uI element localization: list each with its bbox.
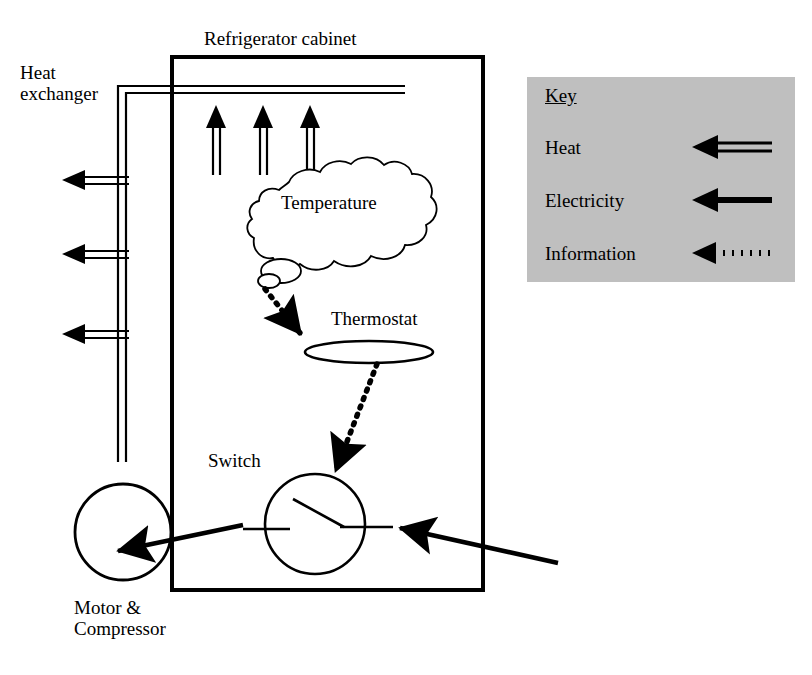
label-thermostat: Thermostat: [331, 308, 418, 329]
information-arrow-temperature-to-thermostat: [265, 289, 300, 333]
label-switch: Switch: [208, 450, 261, 471]
heat-arrow-up-3: [300, 105, 320, 175]
key-heat-arrow-icon: [692, 135, 772, 159]
label-temperature: Temperature: [281, 192, 377, 213]
temperature-thought-cloud: [247, 157, 436, 288]
key-row-label-information: Information: [545, 243, 636, 265]
key-title: Key: [545, 85, 577, 107]
key-electricity-arrow-icon: [692, 188, 772, 212]
motor-compressor-circle: [75, 484, 171, 580]
switch-symbol: [243, 474, 393, 574]
label-refrigerator-cabinet: Refrigerator cabinet: [204, 28, 356, 49]
key-row-label-heat: Heat: [545, 137, 581, 159]
key-legend-box: Key Heat Electricity Information: [527, 77, 795, 282]
key-information-arrow-icon: [692, 242, 770, 264]
heat-arrow-up-1: [206, 105, 226, 175]
heat-arrows-up: [206, 105, 320, 175]
heat-arrow-up-2: [253, 105, 273, 175]
refrigerator-control-diagram: Refrigerator cabinet Heat exchanger Temp…: [0, 0, 812, 675]
label-motor-compressor: Motor & Compressor: [74, 597, 166, 640]
electricity-arrow-switch-to-motor: [118, 525, 243, 551]
key-row-label-electricity: Electricity: [545, 190, 624, 212]
information-arrow-thermostat-to-switch: [336, 364, 377, 470]
electricity-arrow-mains-to-switch: [400, 528, 558, 563]
label-heat-exchanger: Heat exchanger: [20, 62, 98, 105]
thermostat-ellipse: [305, 341, 433, 363]
